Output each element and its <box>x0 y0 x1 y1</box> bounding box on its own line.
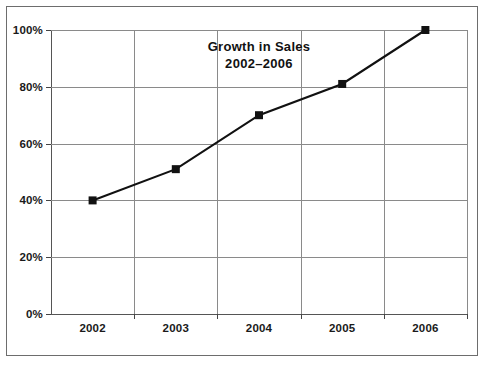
data-point-2002 <box>89 196 97 204</box>
plot-area: 0%20%40%60%80%100% 20022003200420052006 … <box>51 30 467 314</box>
x-tick-label-2002: 2002 <box>79 322 105 334</box>
x-tick-2 <box>217 314 218 319</box>
series-markers <box>89 26 430 204</box>
x-tick-1 <box>134 314 135 319</box>
x-tick-label-2003: 2003 <box>163 322 189 334</box>
chart-figure: 0%20%40%60%80%100% 20022003200420052006 … <box>6 6 478 356</box>
y-tick-label-60: 60% <box>19 138 43 150</box>
data-point-2006 <box>421 26 429 34</box>
x-tick-label-2006: 2006 <box>412 322 438 334</box>
y-tick-label-20: 20% <box>19 251 43 263</box>
y-tick-label-40: 40% <box>19 194 43 206</box>
x-tick-5 <box>467 314 468 319</box>
x-tick-label-2005: 2005 <box>329 322 355 334</box>
x-tick-label-2004: 2004 <box>246 322 272 334</box>
data-point-2005 <box>338 80 346 88</box>
y-tick-label-100: 100% <box>13 24 43 36</box>
y-tick-label-0: 0% <box>26 308 43 320</box>
x-tick-3 <box>301 314 302 319</box>
sales-line-series <box>51 30 467 314</box>
data-point-2003 <box>172 165 180 173</box>
y-tick-0 <box>46 314 51 315</box>
x-tick-4 <box>384 314 385 319</box>
y-tick-label-80: 80% <box>19 81 43 93</box>
gridline-y-0 <box>51 314 467 315</box>
plot-right-edge <box>467 30 468 314</box>
data-point-2004 <box>255 111 263 119</box>
